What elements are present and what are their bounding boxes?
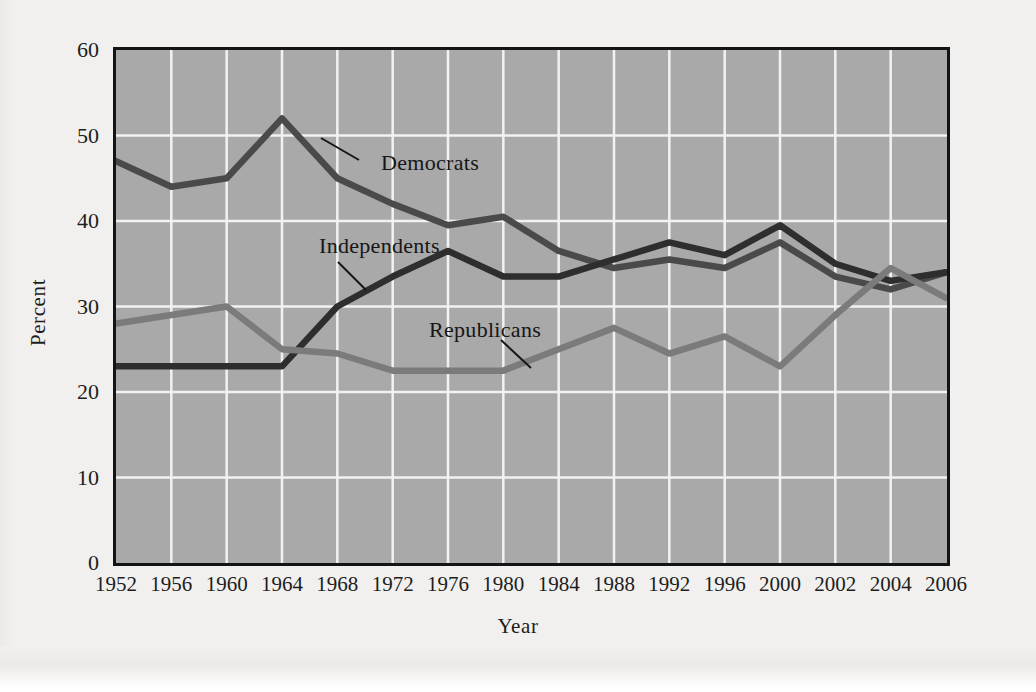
y-tick-label: 40 — [39, 208, 99, 234]
x-axis-title: Year — [0, 614, 1036, 639]
x-tick-label: 1992 — [648, 572, 690, 597]
y-tick-label: 50 — [39, 123, 99, 149]
leader-line-independents — [338, 262, 366, 290]
x-tick-label: 1996 — [704, 572, 746, 597]
x-tick-label: 1956 — [150, 572, 192, 597]
plot-area: DemocratsIndependentsRepublicans — [113, 47, 950, 566]
x-tick-label: 1960 — [206, 572, 248, 597]
x-tick-label: 1984 — [538, 572, 580, 597]
x-tick-label: 2002 — [814, 572, 856, 597]
x-tick-label: 1964 — [261, 572, 303, 597]
series-label-republicans: Republicans — [429, 317, 541, 343]
y-tick-label: 10 — [39, 465, 99, 491]
y-tick-label: 20 — [39, 379, 99, 405]
gridlines — [116, 50, 947, 563]
x-tick-label: 1988 — [593, 572, 635, 597]
x-tick-label: 2000 — [759, 572, 801, 597]
y-tick-label: 60 — [39, 37, 99, 63]
x-tick-label: 1980 — [482, 572, 524, 597]
x-tick-label: 1972 — [372, 572, 414, 597]
leader-line-democrats — [321, 138, 359, 160]
series-line-democrats — [116, 118, 946, 289]
line-chart-figure: Percent Year 0102030405060 1952195619601… — [0, 0, 1036, 692]
x-tick-label: 1952 — [95, 572, 137, 597]
y-tick-label: 30 — [39, 294, 99, 320]
series-label-independents: Independents — [319, 233, 440, 259]
scanned-page: Percent Year 0102030405060 1952195619601… — [0, 0, 1036, 692]
x-tick-label: 1976 — [427, 572, 469, 597]
series-line-independents — [116, 225, 946, 366]
series-label-democrats: Democrats — [381, 150, 479, 176]
x-axis-tick-labels: 1952195619601964196819721976198019841988… — [0, 572, 1036, 606]
x-tick-label: 2006 — [925, 572, 967, 597]
x-tick-label: 2004 — [870, 572, 912, 597]
plot-svg — [116, 50, 947, 563]
x-tick-label: 1968 — [316, 572, 358, 597]
